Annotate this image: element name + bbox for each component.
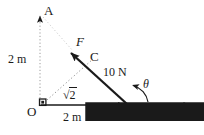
force-vector-symbol-wrap: F <box>76 33 84 49</box>
displacement-vector-symbol-wrap: r <box>113 108 118 124</box>
sqrt-radicand: 2 <box>69 87 77 102</box>
diagonal-length-label: √2 <box>63 86 77 102</box>
vertical-distance-label: 2 m <box>8 53 26 65</box>
angle-label: θ <box>143 78 149 90</box>
displacement-vector-label: r <box>113 108 118 124</box>
physics-vector-diagram: A O B C 2 m 2 m 10 N F r √2 <box>0 0 204 135</box>
point-label-a: A <box>44 4 53 17</box>
vector-overarrow-icon <box>113 108 204 135</box>
a-to-c-dotted-line <box>43 17 73 51</box>
right-angle-marker-dot <box>41 101 44 104</box>
point-label-o: O <box>27 105 36 118</box>
sqrt-expression: √2 <box>63 89 77 101</box>
force-vector-label: F <box>76 33 84 49</box>
